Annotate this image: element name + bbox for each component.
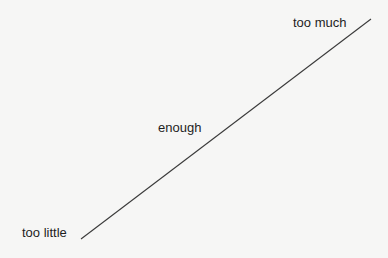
diagram-canvas: too little enough too much bbox=[0, 0, 388, 258]
label-too-little: too little bbox=[22, 226, 67, 239]
label-enough: enough bbox=[158, 121, 201, 134]
diagonal-line bbox=[81, 19, 371, 239]
label-too-much: too much bbox=[293, 16, 346, 29]
